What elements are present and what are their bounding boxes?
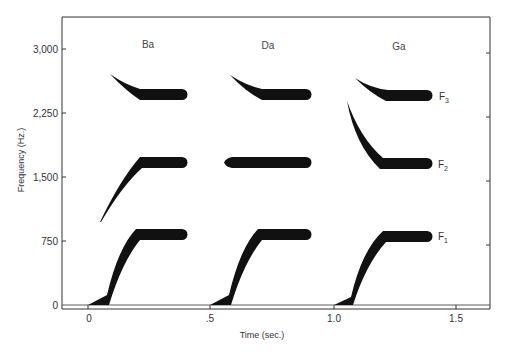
- ga-f3-formant: [355, 78, 433, 101]
- formant-label-f2: F2: [438, 159, 448, 172]
- syllable-ba: [88, 74, 188, 305]
- x-tick-label: 0: [86, 313, 92, 324]
- syllable-label-ga: Ga: [392, 41, 406, 52]
- ga-f2-formant: [347, 101, 433, 169]
- syllable-label-ba: Ba: [142, 39, 155, 50]
- syllable-labels: Ba Da Ga: [142, 39, 406, 52]
- da-f3-formant: [230, 75, 312, 100]
- syllable-da: [210, 75, 312, 305]
- right-axis-ticks: [486, 53, 490, 245]
- ba-f1-formant: [106, 229, 188, 305]
- y-tick-label: 2,250: [33, 108, 58, 119]
- da-f1-formant: [228, 229, 312, 305]
- x-axis: 0 .5 1.0 1.5 Time (sec.): [86, 305, 463, 340]
- ba-f3-formant: [110, 74, 188, 100]
- x-tick-label: .5: [206, 313, 215, 324]
- formant-labels: F3 F2 F1: [438, 91, 449, 244]
- y-tick-label: 3,000: [33, 44, 58, 55]
- ba-burst: [88, 295, 108, 305]
- formant-label-f1: F1: [438, 231, 448, 244]
- da-f2-formant: [224, 157, 312, 168]
- x-tick-label: 1.5: [449, 313, 463, 324]
- da-burst: [210, 295, 231, 305]
- y-axis-title: Frequency (Hz.): [16, 128, 26, 193]
- ba-f2-formant: [100, 157, 188, 222]
- syllable-ga: [334, 78, 433, 305]
- y-tick-label: 0: [52, 300, 58, 311]
- formant-label-f3: F3: [439, 91, 449, 104]
- formant-chart: 3,000 2,250 1,500 750 0 Frequency (Hz.) …: [0, 0, 508, 355]
- y-axis: 3,000 2,250 1,500 750 0 Frequency (Hz.): [16, 44, 66, 311]
- syllable-label-da: Da: [262, 40, 275, 51]
- ga-f1-formant: [350, 231, 433, 305]
- ga-burst: [334, 297, 353, 305]
- y-tick-label: 750: [41, 236, 58, 247]
- y-tick-label: 1,500: [33, 172, 58, 183]
- x-axis-title: Time (sec.): [240, 330, 285, 340]
- x-tick-label: 1.0: [327, 313, 341, 324]
